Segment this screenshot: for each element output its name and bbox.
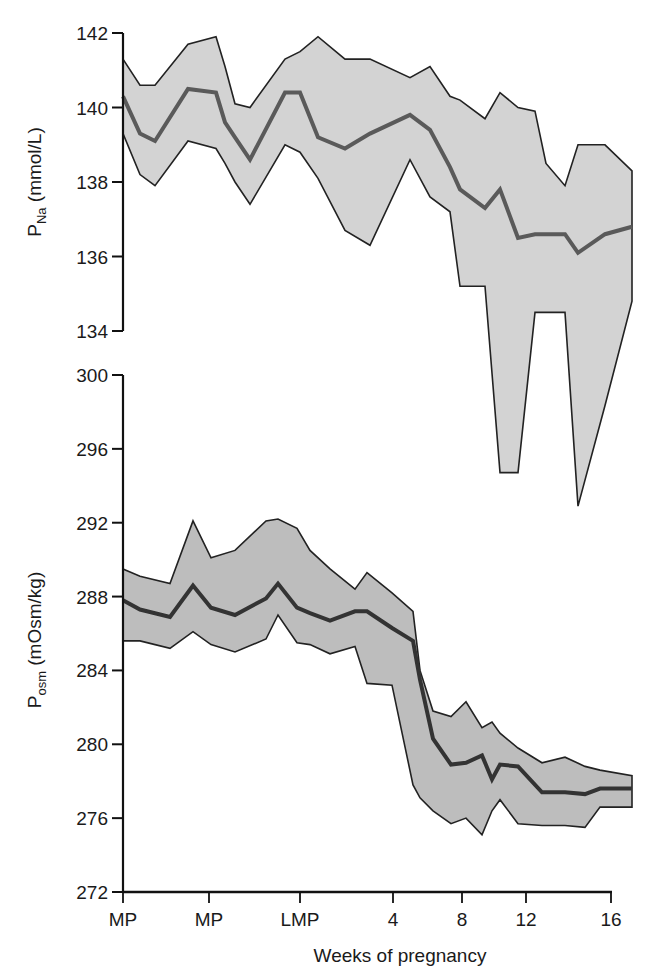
pregnancy-plasma-chart: 134136138140142 PNa (mmol/L) 27227628028… (0, 0, 655, 976)
x-tick-label: LMP (280, 909, 319, 930)
osmolality-y-axis-title: Posm (mOsm/kg) (24, 572, 49, 708)
osmolality-range-band (123, 519, 632, 835)
y-tick-label: 276 (76, 808, 108, 829)
y-tick-label: 288 (76, 587, 108, 608)
x-tick-label: 16 (600, 909, 621, 930)
y-tick-label: 140 (76, 98, 108, 119)
x-tick-label: MP (109, 909, 138, 930)
x-tick-label: MP (195, 909, 224, 930)
y-tick-label: 272 (76, 882, 108, 903)
sodium-y-ticks: 134136138140142 (76, 23, 123, 342)
y-tick-label: 300 (76, 365, 108, 386)
osmolality-panel: 272276280284288292296300 Posm (mOsm/kg) (24, 365, 632, 903)
y-tick-label: 142 (76, 23, 108, 44)
osmolality-y-ticks: 272276280284288292296300 (76, 365, 123, 903)
sodium-y-axis-title: PNa (mmol/L) (24, 127, 49, 237)
y-tick-label: 296 (76, 439, 108, 460)
y-tick-label: 292 (76, 513, 108, 534)
sodium-panel: 134136138140142 PNa (mmol/L) (24, 23, 632, 506)
x-tick-label: 12 (515, 909, 536, 930)
y-tick-label: 136 (76, 247, 108, 268)
x-axis-title: Weeks of pregnancy (314, 945, 487, 966)
y-tick-label: 134 (76, 321, 108, 342)
x-tick-label: 8 (457, 909, 468, 930)
y-tick-label: 280 (76, 734, 108, 755)
y-tick-label: 284 (76, 660, 108, 681)
y-tick-label: 138 (76, 172, 108, 193)
sodium-range-band (123, 37, 632, 506)
x-tick-label: 4 (388, 909, 399, 930)
x-axis-ticks: MPMPLMP481216 (109, 892, 622, 930)
x-axis: MPMPLMP481216 Weeks of pregnancy (109, 892, 622, 966)
